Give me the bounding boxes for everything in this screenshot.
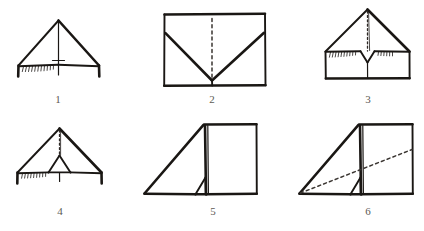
figure-4: 4 <box>17 129 101 218</box>
figure-2-right-edge <box>265 14 266 85</box>
figure-4-inner-right <box>60 156 71 173</box>
figure-2-caption: 2 <box>209 93 215 105</box>
figure-3-caption: 3 <box>365 93 371 105</box>
figure-2-crease-left-arm <box>166 33 213 80</box>
figure-6-rect-spine-inner <box>363 126 364 195</box>
figure-2-crease-right-arm <box>212 33 264 81</box>
figure-6-diagonal-slope <box>300 125 359 194</box>
figure-4-caption: 4 <box>57 205 63 217</box>
figure-6-caption: 6 <box>365 205 371 217</box>
instruction-diagram: 1 2 <box>0 0 424 231</box>
figure-3-midline-left <box>326 51 361 52</box>
figure-3-midline-right <box>375 51 410 52</box>
figure-5-caption: 5 <box>210 205 216 217</box>
figure-3-notch-right <box>368 51 375 62</box>
diagram-canvas: 1 2 <box>0 0 424 231</box>
figure-2-bottom-edge <box>164 85 265 86</box>
figure-3-right-slope <box>368 10 410 52</box>
figure-3-left-slope <box>326 10 368 52</box>
figure-3: 3 <box>326 10 410 106</box>
figure-5: 5 <box>145 124 257 217</box>
figure-4-base-left <box>18 172 49 173</box>
figure-2: 2 <box>164 14 265 105</box>
figure-1-right-slope <box>59 21 100 66</box>
figure-5-rect-bottom-edge <box>207 194 257 195</box>
figure-3-crease-edge <box>369 12 370 51</box>
figure-4-inner-left <box>49 156 60 173</box>
figure-1-base-right <box>58 65 99 66</box>
figure-6-rect-bottom-edge <box>362 194 413 195</box>
figure-2-top-edge <box>165 14 266 15</box>
figure-5-wedge-slant <box>196 178 206 195</box>
figure-5-diagonal-slope <box>145 125 204 194</box>
figure-5-rect-left-edge <box>205 125 206 194</box>
figure-1-caption: 1 <box>55 93 61 105</box>
figure-1: 1 <box>18 21 99 106</box>
figure-1-left-slope <box>19 21 59 66</box>
figure-6: 6 <box>300 124 413 217</box>
figure-3-hatching-right <box>378 52 393 56</box>
figure-6-rect-left-edge <box>360 125 361 194</box>
figure-4-base-right <box>71 172 102 173</box>
figure-3-notch-left <box>361 51 368 62</box>
figure-5-rect-spine-inner <box>208 126 209 195</box>
figure-6-wedge-slant <box>351 178 361 195</box>
